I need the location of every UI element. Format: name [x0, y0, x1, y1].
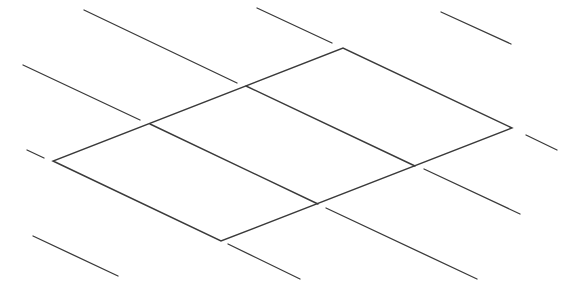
divider-line-2 — [246, 86, 415, 166]
extension-line-3 — [27, 150, 44, 158]
extension-line-10 — [228, 244, 300, 279]
extension-line-9 — [326, 208, 477, 279]
divider-line-1 — [150, 124, 318, 204]
extension-line-6 — [441, 12, 511, 44]
extension-line-8 — [424, 169, 520, 214]
divider-lines — [150, 86, 415, 204]
extension-line-5 — [257, 8, 332, 43]
extension-lines — [23, 8, 557, 279]
extension-line-2 — [23, 65, 140, 120]
extension-line-7 — [526, 135, 557, 150]
parallelogram-diagram — [0, 0, 580, 295]
extension-line-4 — [33, 236, 118, 276]
parallelogram-outline — [53, 48, 512, 241]
extension-line-1 — [84, 10, 237, 83]
diagram-canvas — [0, 0, 580, 295]
